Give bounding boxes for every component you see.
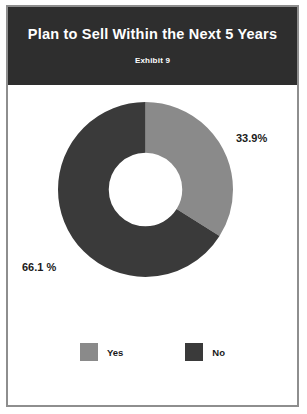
- legend-item-yes[interactable]: Yes: [80, 343, 123, 361]
- donut-chart: 33.9% 66.1 %: [8, 85, 297, 345]
- legend-label-yes: Yes: [107, 347, 123, 358]
- legend-item-no[interactable]: No: [185, 343, 225, 361]
- chart-subtitle: Exhibit 9: [135, 56, 170, 65]
- donut-chart-svg: [58, 102, 233, 277]
- data-label-yes: 33.9%: [236, 132, 267, 144]
- legend-label-no: No: [212, 347, 225, 358]
- legend-swatch-no: [185, 343, 203, 361]
- legend-swatch-yes: [80, 343, 98, 361]
- chart-legend: Yes No: [8, 343, 297, 361]
- chart-figure: Plan to Sell Within the Next 5 Years Exh…: [6, 5, 299, 407]
- page-title: Plan to Sell Within the Next 5 Years: [28, 27, 277, 43]
- plot-area: 33.9% 66.1 % Yes No: [8, 85, 297, 405]
- data-label-no: 66.1 %: [22, 261, 56, 273]
- chart-header: Plan to Sell Within the Next 5 Years Exh…: [8, 7, 297, 85]
